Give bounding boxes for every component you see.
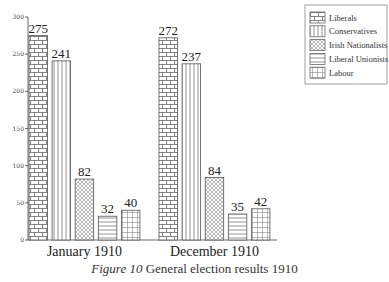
y-tick-label: 100: [13, 162, 25, 169]
bar-liberals: [159, 38, 178, 240]
bar-value-label: 241: [52, 46, 72, 61]
category-label: January 1910: [47, 244, 122, 259]
bar-irish-nationalists: [205, 178, 224, 240]
y-tick-label: 50: [16, 199, 24, 206]
bars: 275241823240January 1910272237843542Dece…: [29, 21, 270, 259]
legend-swatch: [310, 67, 325, 78]
legend-swatch: [310, 12, 325, 23]
y-tick-label: 0: [20, 236, 24, 243]
y-tick-label: 150: [13, 125, 25, 132]
figure-title: General election results 1910: [146, 261, 298, 276]
y-tick-label: 200: [13, 87, 25, 94]
legend-label: Liberal Unionists: [329, 54, 388, 64]
y-tick-label: 300: [13, 13, 25, 20]
legend: LiberalsConservativesIrish NationalistsL…: [305, 5, 388, 84]
bar-value-label: 32: [101, 201, 114, 216]
legend-label: Conservatives: [329, 26, 377, 36]
bar-value-label: 40: [124, 195, 137, 210]
bar-labour: [251, 209, 270, 240]
figure-label: Figure 10: [91, 261, 142, 276]
legend-label: Liberals: [329, 13, 357, 23]
bar-irish-nationalists: [75, 179, 94, 240]
bar-value-label: 237: [182, 49, 202, 64]
bar-value-label: 42: [254, 194, 267, 209]
y-tick-label: 250: [13, 50, 25, 57]
bar-liberal-unionists: [228, 214, 247, 240]
bar-conservatives: [182, 64, 201, 240]
legend-swatch: [310, 40, 325, 51]
legend-label: Irish Nationalists: [329, 40, 387, 50]
bar-chart: 050100150200250300 275241823240January 1…: [0, 0, 389, 282]
bar-value-label: 275: [29, 21, 49, 36]
category-label: December 1910: [170, 244, 259, 259]
bar-value-label: 272: [159, 23, 179, 38]
legend-label: Labour: [329, 68, 354, 78]
figure-caption: Figure 10 General election results 1910: [0, 261, 389, 277]
bar-value-label: 35: [231, 199, 244, 214]
bar-labour: [121, 210, 139, 240]
legend-swatch: [310, 53, 325, 64]
legend-swatch: [310, 26, 325, 37]
bar-liberals: [29, 36, 48, 240]
bar-value-label: 84: [208, 163, 222, 178]
bar-value-label: 82: [78, 164, 91, 179]
bar-liberal-unionists: [98, 216, 117, 240]
bar-conservatives: [52, 61, 71, 240]
